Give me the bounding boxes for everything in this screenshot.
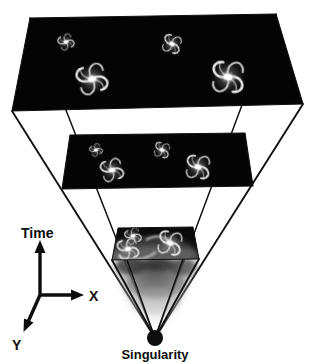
slice-middle: [62, 133, 253, 189]
time-axis-label: Time: [21, 225, 54, 241]
singularity-point: [147, 330, 163, 346]
slice-middle-plane: [62, 133, 253, 189]
x-axis-label: X: [89, 288, 99, 304]
slice-top: [12, 14, 303, 111]
slice-top-plane: [12, 14, 303, 111]
spacetime-cone-diagram: Time X Y Singularity: [0, 0, 314, 364]
y-axis-label: Y: [12, 337, 22, 353]
singularity-label: Singularity: [121, 347, 189, 362]
